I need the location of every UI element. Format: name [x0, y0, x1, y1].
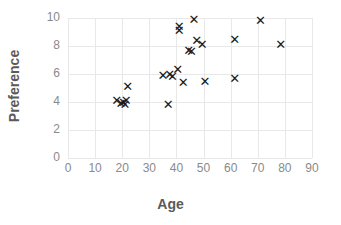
y-tick-label: 4	[34, 94, 60, 108]
gridline-horizontal	[68, 130, 312, 131]
data-point-marker: ✕	[188, 13, 201, 26]
gridline-vertical	[258, 18, 259, 158]
y-axis-title: Preference	[6, 26, 22, 146]
data-point-marker: ✕	[254, 14, 267, 27]
x-tick-label: 90	[297, 161, 327, 175]
plot-area: ✕✕✕✕✕✕✕✕✕✕✕✕✕✕✕✕✕✕✕✕✕✕✕✕	[68, 18, 312, 158]
y-tick-label: 8	[34, 38, 60, 52]
x-tick-label: 50	[189, 161, 219, 175]
data-point-marker: ✕	[177, 76, 190, 89]
data-point-marker: ✕	[121, 80, 134, 93]
x-tick-label: 30	[134, 161, 164, 175]
y-tick-label: 2	[34, 122, 60, 136]
y-tick-label: 0	[34, 150, 60, 164]
data-point-marker: ✕	[173, 24, 186, 37]
gridline-vertical	[149, 18, 150, 158]
y-tick-label: 6	[34, 66, 60, 80]
x-tick-label: 70	[243, 161, 273, 175]
x-axis-title: Age	[0, 196, 341, 212]
x-tick-label: 20	[107, 161, 137, 175]
data-point-marker: ✕	[118, 98, 131, 111]
x-tick-label: 40	[161, 161, 191, 175]
x-tick-label: 60	[216, 161, 246, 175]
gridline-horizontal	[68, 158, 312, 159]
data-point-marker: ✕	[228, 72, 241, 85]
gridline-horizontal	[68, 74, 312, 75]
gridline-horizontal	[68, 102, 312, 103]
data-point-marker: ✕	[196, 38, 209, 51]
gridline-vertical	[68, 18, 69, 158]
x-tick-label: 80	[270, 161, 300, 175]
data-point-marker: ✕	[274, 38, 287, 51]
scatter-chart: ✕✕✕✕✕✕✕✕✕✕✕✕✕✕✕✕✕✕✕✕✕✕✕✕ 010203040506070…	[0, 0, 341, 225]
data-point-marker: ✕	[228, 33, 241, 46]
gridline-vertical	[95, 18, 96, 158]
gridline-vertical	[312, 18, 313, 158]
y-tick-label: 10	[34, 10, 60, 24]
data-point-marker: ✕	[198, 75, 211, 88]
x-tick-label: 10	[80, 161, 110, 175]
data-point-marker: ✕	[162, 98, 175, 111]
